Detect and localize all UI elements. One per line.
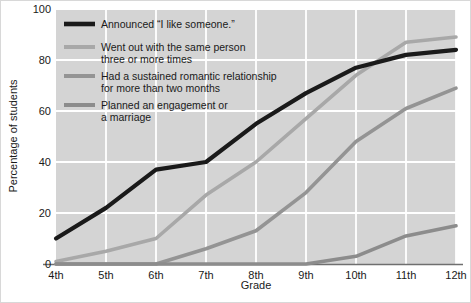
legend-label-2: Went out with the same person <box>101 41 246 53</box>
x-tick-label: 5th <box>98 269 113 281</box>
x-tick-label: 7th <box>198 269 213 281</box>
legend-label-3: Had a sustained romantic relationship <box>101 70 277 82</box>
legend-label-4-line2: a marriage <box>101 111 151 123</box>
x-axis-title: Grade <box>241 279 272 291</box>
x-tick-label: 12th <box>445 269 466 281</box>
y-axis-tick-labels: 020406080100 <box>33 3 51 270</box>
y-tick-label: 40 <box>39 156 51 168</box>
legend-label-4: Planned an engagement or <box>101 99 228 111</box>
y-tick-label: 100 <box>33 3 51 15</box>
x-tick-label: 9th <box>298 269 313 281</box>
line-chart: 020406080100 4th5th6th7th8th9th10th11th1… <box>1 1 471 303</box>
x-tick-label: 10th <box>345 269 366 281</box>
x-tick-label: 6th <box>148 269 163 281</box>
chart-figure: 020406080100 4th5th6th7th8th9th10th11th1… <box>0 0 471 303</box>
x-tick-label: 11th <box>396 269 417 281</box>
legend-label-3-line2: for more than two months <box>101 82 220 94</box>
y-tick-label: 20 <box>39 207 51 219</box>
x-tick-label: 4th <box>48 269 63 281</box>
y-axis-title: Percentage of students <box>7 79 19 193</box>
y-tick-label: 80 <box>39 54 51 66</box>
legend-label-1: Announced “I like someone.” <box>101 18 235 30</box>
y-tick-label: 60 <box>39 105 51 117</box>
legend-label-2-line2: three or more times <box>101 53 192 65</box>
